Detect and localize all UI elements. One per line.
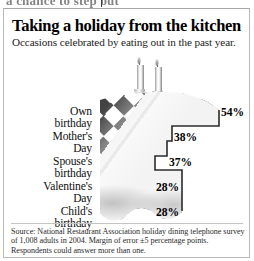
value-label-own-birthday: 54% [221,106,244,119]
source-line-2: of 1,008 adults in 2004. Margin of error… [11,236,245,245]
infographic-frame: Taking a holiday from the kitchen Occasi… [3,8,250,258]
source-note: Source: National Restaurant Association … [11,227,245,255]
source-divider [11,223,243,224]
page-subtitle: Occasions celebrated by eating out in th… [12,36,246,49]
category-label-valentines-day: Valentine's Day [3,181,92,204]
category-label-own-birthday: Own birthday [3,106,92,129]
value-label-mothers-day: 38% [174,131,197,144]
value-label-spouses-birthday: 37% [169,156,192,169]
page-title: Taking a holiday from the kitchen [12,16,244,35]
source-line-1: Source: National Restaurant Association … [11,227,245,236]
clipped-text-above: a chance to step out [0,0,254,8]
category-label-childs-birthday: Child's birthday [3,206,92,229]
value-label-childs-birthday: 28% [156,206,179,219]
category-label-spouses-birthday: Spouse's birthday [3,156,92,179]
source-line-3: Respondents could answer more than one. [11,246,245,255]
category-label-mothers-day: Mother's Day [3,131,92,154]
clipped-headline-fragment: a chance to step out [6,0,119,8]
value-label-valentines-day: 28% [156,181,179,194]
clipped-rule-tick [101,0,102,7]
